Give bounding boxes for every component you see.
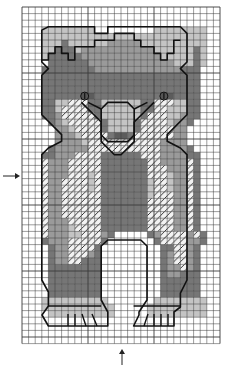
cross-stitch-chart	[0, 0, 235, 368]
center-row-arrow-icon	[2, 171, 22, 181]
center-column-arrow-icon	[117, 348, 127, 366]
